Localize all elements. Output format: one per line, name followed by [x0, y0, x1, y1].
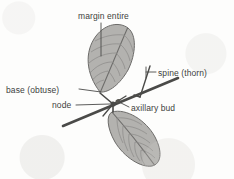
- leader-node: [76, 104, 110, 105]
- label-spine-thorn: spine (thorn): [158, 68, 207, 78]
- label-node: node: [52, 100, 71, 110]
- leaf-diagram-figure: margin entire spine (thorn) base (obtuse…: [0, 0, 234, 179]
- leader-axillary-bud: [119, 102, 129, 107]
- label-base-obtuse: base (obtuse): [6, 85, 59, 95]
- label-axillary-bud: axillary bud: [131, 103, 175, 113]
- node-point: [110, 101, 115, 106]
- label-margin-entire: margin entire: [78, 11, 129, 21]
- lower-leaf: [108, 111, 160, 167]
- thorn: [134, 66, 150, 97]
- upper-leaf: [88, 24, 134, 93]
- node: [110, 101, 115, 106]
